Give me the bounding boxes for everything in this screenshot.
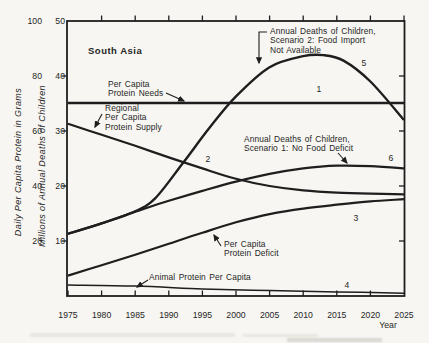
x-tick-label-1990: 1990 — [159, 310, 178, 320]
curve-6-path — [68, 166, 404, 234]
book-figure-page: 1975198019851990199520002005201020152020… — [0, 0, 429, 343]
deficit-label-line-2: Protein Deficit — [224, 248, 279, 258]
outer-scale-label-100: 100 — [28, 16, 43, 26]
x-tick-label-1980: 1980 — [92, 310, 111, 320]
x-tick-label-2005: 2005 — [260, 310, 279, 320]
x-tick-label-2010: 2010 — [294, 310, 313, 320]
south-asia-protein-deaths-chart: 1975198019851990199520002005201020152020… — [0, 0, 429, 343]
annotation-texts: South AsiaPer CapitaProtein NeedsRegiona… — [88, 26, 376, 282]
scan-smudge-3 — [287, 338, 382, 342]
x-tick-label-1995: 1995 — [193, 310, 212, 320]
curve-number-1: 1 — [317, 84, 322, 94]
scenario1-label-line-2: Scenario 1: No Food Deficit — [244, 143, 354, 153]
curve-number-6: 6 — [389, 153, 394, 163]
needs-label-line-2: Protein Needs — [108, 88, 163, 98]
curve-number-2: 2 — [206, 154, 211, 164]
y-axis-title-grams: Daily Per Capita Protein in Grams — [13, 88, 23, 236]
x-tick-label-2020: 2020 — [361, 310, 380, 320]
scan-smudge-1 — [30, 333, 235, 337]
axis-titles: Daily Per Capita Protein in GramsMillion… — [13, 85, 397, 330]
animal-label-line-1: Animal Protein Per Capita — [149, 272, 251, 282]
supply-label-line-3: Protein Supply — [105, 122, 163, 132]
inner-scale-label-20: 20 — [55, 181, 65, 191]
needs-arrow — [166, 93, 184, 101]
region-title-line-1: South Asia — [88, 45, 142, 56]
x-tick-label-1975: 1975 — [58, 310, 77, 320]
y-axis-title-deaths: Millions of Annual Deaths of Children — [37, 85, 47, 247]
scenario2-arrow — [259, 32, 267, 63]
x-tick-label-2015: 2015 — [327, 310, 346, 320]
scenario1-arrow — [338, 153, 347, 163]
supply-arrow — [95, 114, 102, 127]
scan-artifacts — [30, 333, 382, 342]
inner-scale-label-10: 10 — [55, 236, 65, 246]
scan-smudge-2 — [243, 334, 318, 337]
x-tick-label-1985: 1985 — [126, 310, 145, 320]
inner-scale-label-50: 50 — [55, 16, 65, 26]
x-tick-label-2000: 2000 — [226, 310, 245, 320]
annotation-arrows — [95, 32, 347, 287]
outer-scale-label-80: 80 — [32, 71, 42, 81]
deficit-arrow — [214, 235, 221, 246]
inner-scale-label-40: 40 — [55, 71, 65, 81]
curve-number-3: 3 — [354, 213, 359, 223]
scenario2-label-line-3: Not Available — [270, 45, 321, 55]
curve-3-path — [68, 199, 404, 275]
curve-number-4: 4 — [345, 280, 350, 290]
inner-scale-label-30: 30 — [55, 126, 65, 136]
x-tick-label-2025: 2025 — [394, 310, 413, 320]
x-axis-title-year: Year — [379, 320, 397, 330]
curve-2-path — [68, 124, 404, 195]
curve-number-5: 5 — [362, 58, 367, 68]
